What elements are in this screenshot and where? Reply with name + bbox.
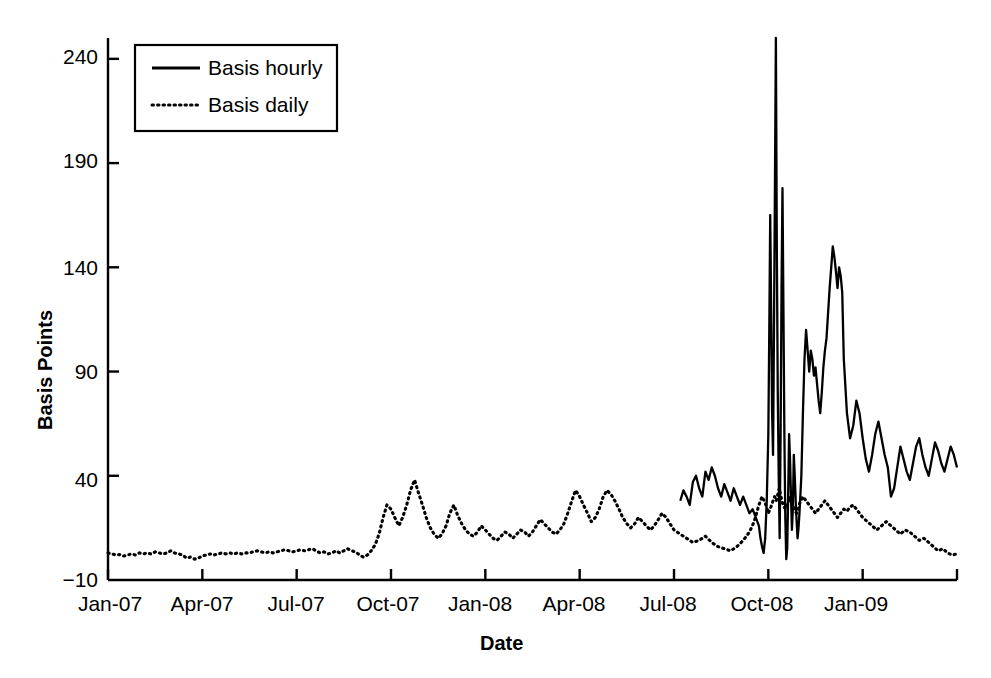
chart-figure: Basis Points 240 190 140 90 40 −10 Jan-0… (0, 0, 991, 678)
legend-box (135, 45, 337, 131)
axis-ticks (108, 59, 957, 580)
series-line-basis-hourly (680, 38, 957, 559)
chart-plot-area (0, 0, 991, 678)
series-line-basis-daily (108, 480, 957, 559)
axis-spines (108, 38, 957, 580)
